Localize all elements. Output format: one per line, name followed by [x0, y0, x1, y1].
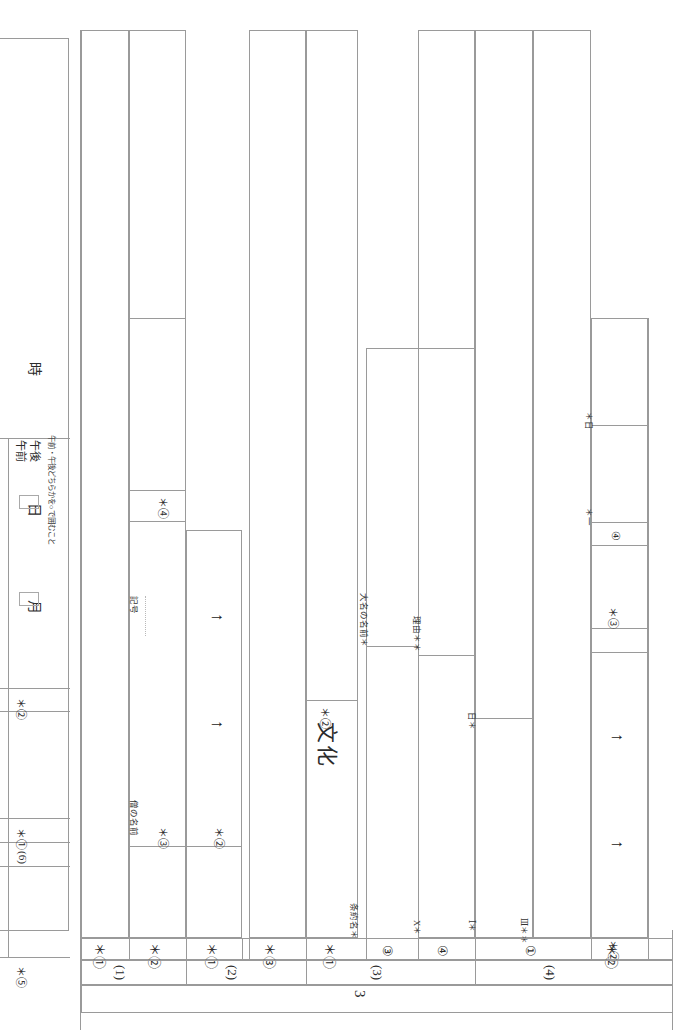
- col3-treaty-name-label: 条約名＊: [349, 903, 361, 939]
- left-marker-6: (6): [17, 851, 29, 864]
- left-divider-3: [0, 711, 70, 712]
- col4-roman1-label: Ⅰ＊: [467, 920, 479, 932]
- col1c-arrow-up-1: ↑: [207, 613, 227, 622]
- bottom-marks-row: [81, 938, 673, 960]
- marks-sep-3: [242, 938, 243, 960]
- col2b-div-1: [306, 700, 358, 701]
- col1-mark-star4: ＊④: [156, 497, 172, 519]
- col2-culture-label: 文化: [314, 722, 344, 768]
- marks-sep-8: [475, 938, 476, 960]
- bottom-group-2: (2): [224, 965, 240, 980]
- colR-one-label: ＊一: [584, 508, 596, 526]
- left-frame-outer: [0, 38, 69, 931]
- page-number: 3: [351, 990, 368, 998]
- left-divider-2: [0, 688, 70, 689]
- groups-sep-3: [475, 960, 476, 985]
- marks-sep-9: [591, 938, 592, 960]
- left-marker-star5: ＊⑤: [14, 966, 30, 988]
- col1b-div-2: [129, 490, 186, 491]
- column-1a[interactable]: [81, 30, 129, 938]
- marks-sep-6: [366, 938, 367, 960]
- left-divider-5: [0, 842, 70, 843]
- colR-day-label: ＊日: [584, 412, 596, 430]
- marks-sep-5: [306, 938, 307, 960]
- left-divider-6: [0, 866, 70, 867]
- marks-sep-10: [648, 938, 649, 960]
- col1c-mark-star2: ＊②: [212, 827, 228, 849]
- colR-vert-right: [648, 318, 649, 938]
- bottom-group-1: (1): [112, 965, 128, 980]
- header-small-box-1: [19, 495, 39, 509]
- bottom-mark-6: ③: [379, 945, 395, 957]
- left-divider-4: [0, 818, 70, 819]
- col3a-div-3: [418, 655, 475, 656]
- marks-sep-1: [129, 938, 130, 960]
- colR-div-3: [591, 545, 648, 546]
- col3a-div-2: [366, 646, 418, 647]
- colR-mark-4: ④: [609, 531, 622, 541]
- colR-div-5: [591, 652, 648, 653]
- col3-x-label: X＊: [412, 920, 424, 935]
- groups-sep-1: [186, 960, 187, 985]
- column-2b[interactable]: [306, 30, 358, 938]
- bottom-mark-7: ④: [434, 945, 450, 957]
- bottom-group-4: (4): [542, 965, 558, 980]
- col1-symbol-label: 記号: [129, 596, 141, 614]
- bottom-mark-8: ①: [522, 945, 538, 957]
- left-inner-vert: [8, 438, 9, 957]
- colR-div-1: [591, 425, 648, 426]
- col1b-div-3: [129, 521, 186, 522]
- colR-arrow-up-2: ↑: [607, 840, 627, 849]
- column-4b[interactable]: [533, 30, 591, 938]
- left-divider-1: [0, 438, 70, 439]
- col1-mark-star3: ＊③: [156, 827, 172, 849]
- ampm-instruction-note: 午前・午後どちらかを○で囲むこと: [47, 435, 58, 545]
- col1-monk-name-label: 僧の名前: [129, 800, 141, 836]
- col4-day-label: 日＊: [467, 712, 479, 730]
- colR-arrow-up-1: ↑: [607, 733, 627, 742]
- col3a-div-1: [366, 348, 475, 349]
- left-marker-star2: ＊②: [14, 698, 30, 720]
- colR-div-2: [591, 522, 648, 523]
- column-1c[interactable]: [186, 530, 242, 938]
- colR-mark-star3: ＊③: [606, 607, 622, 629]
- left-marker-star1: ＊①: [14, 828, 30, 850]
- bottom-group-3: (3): [369, 965, 385, 980]
- col1-symbol-dotted-rule: [145, 596, 146, 636]
- ampm-afternoon[interactable]: 午後: [28, 440, 44, 462]
- left-divider-7: [0, 957, 70, 958]
- column-3a[interactable]: [418, 30, 475, 938]
- col1c-arrow-up-2: ↑: [207, 720, 227, 729]
- marks-sep-4: [249, 938, 250, 960]
- column-2a[interactable]: [249, 30, 306, 938]
- marks-sep-2: [186, 938, 187, 960]
- header-small-box-2: [19, 592, 39, 606]
- bottom-page-row: [81, 985, 673, 1013]
- col4a-div-1: [475, 718, 533, 719]
- col3-reason-label: 理由＊＊: [412, 616, 424, 652]
- col3-daimyo-name-label: 大名の名前＊: [359, 593, 371, 647]
- col1b-div-1: [129, 318, 186, 319]
- groups-sep-2: [306, 960, 307, 985]
- field-label-hour: 時: [26, 362, 46, 376]
- marks-sep-7: [418, 938, 419, 960]
- column-4a[interactable]: [475, 30, 533, 938]
